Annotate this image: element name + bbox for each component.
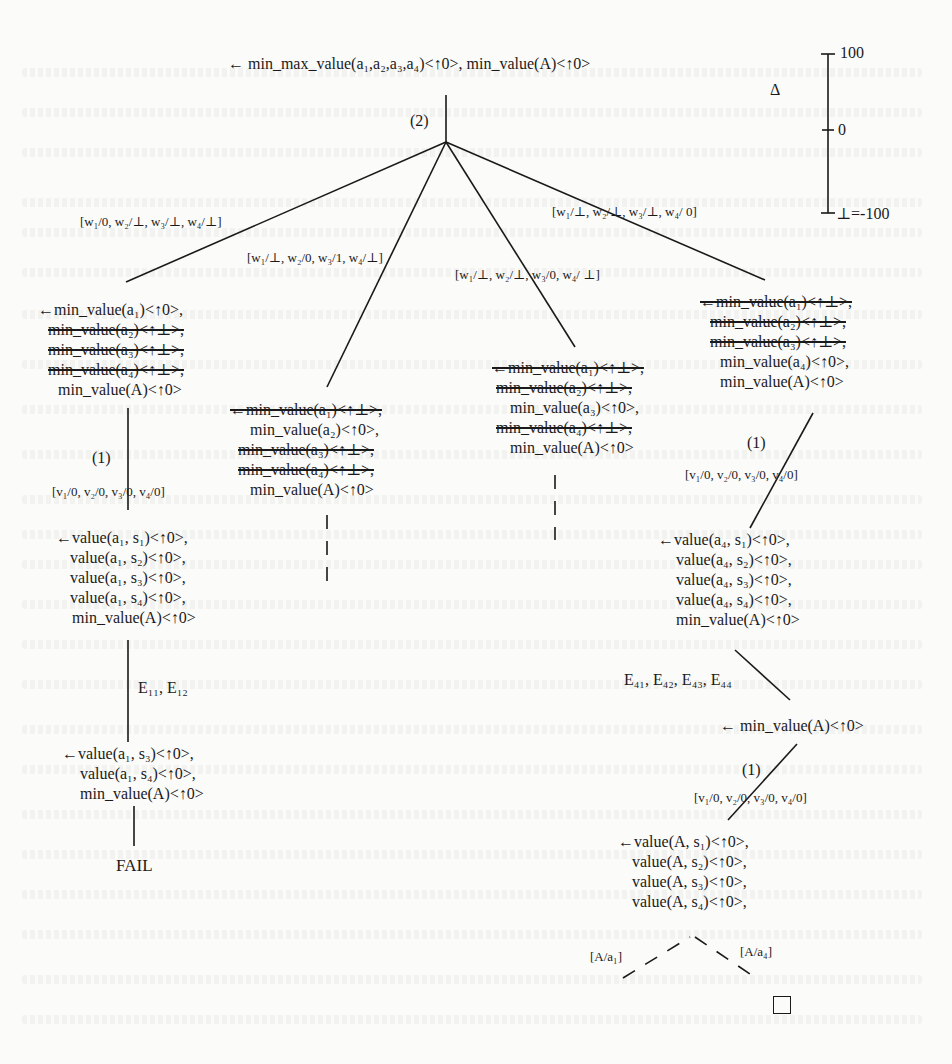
- goal-line: value(A, s₃)<↑0>,: [618, 872, 749, 892]
- goal-line: min_value(A)<↑0>: [56, 608, 196, 628]
- final-branch-left-label: [A/a₁]: [590, 949, 622, 965]
- goal-line-struck: ←min_value(a₁)<↑⊥>,: [230, 400, 382, 420]
- branch-4-substitution: [w₁/⊥, w₂/⊥, w₃/⊥, w₄/ 0]: [552, 204, 697, 220]
- goal-line: value(a₄, s₃)<↑0>,: [658, 570, 800, 590]
- final-branch-right-label: [A/a₄]: [740, 944, 772, 960]
- goal-line-struck: min_value(a₂)<↑⊥>,: [38, 320, 184, 340]
- branch-1-step1-goal: ←value(a₁, s₁)<↑0>, value(a₁, s₂)<↑0>, v…: [56, 528, 196, 628]
- goal-line-struck: ←min_value(a₁)<↑⊥>,: [700, 292, 852, 312]
- goal-line: value(a₁, s₄)<↑0>,: [56, 588, 196, 608]
- goal-line: min_value(A)<↑0>: [492, 438, 644, 458]
- goal-line-struck: min_value(a₃)<↑⊥>,: [230, 440, 382, 460]
- goal-line: value(A, s₂)<↑0>,: [618, 852, 749, 872]
- branch-1-step2-goal: ←value(a₁, s₃)<↑0>, value(a₁, s₄)<↑0>, m…: [62, 744, 204, 804]
- goal-line: min_value(a₄)<↑0>,: [700, 352, 852, 372]
- goal-line: min_value(A)<↑0>: [700, 372, 852, 392]
- goal-line: min_value(A)<↑0>: [230, 480, 382, 500]
- branch-4-step3-goal: ←value(A, s₁)<↑0>, value(A, s₂)<↑0>, val…: [618, 832, 749, 912]
- branch-3-goal: ←min_value(a₁)<↑⊥>, min_value(a₂)<↑⊥>, m…: [492, 358, 644, 458]
- goal-line: ←value(a₁, s₃)<↑0>,: [62, 744, 204, 764]
- branch-4-step1-label: (1): [747, 433, 766, 452]
- goal-line: ←value(a₄, s₁)<↑0>,: [658, 530, 800, 550]
- branch-1-edge-label: E₁₁, E₁₂: [138, 678, 188, 697]
- empty-clause-box-icon: [773, 996, 791, 1014]
- scale-top-label: 100: [840, 43, 864, 62]
- goal-line: min_value(A)<↑0>: [658, 610, 800, 630]
- root-goal: ← min_max_value(a₁,a₂,a₃,a₄)<↑0>, min_va…: [228, 54, 590, 73]
- goal-line-struck: min_value(a₂)<↑⊥>,: [700, 312, 852, 332]
- goal-line: value(a₄, s₂)<↑0>,: [658, 550, 800, 570]
- goal-line-struck: min_value(a₄)<↑⊥>,: [492, 418, 644, 438]
- goal-line: min_value(a₂)<↑0>,: [230, 420, 382, 440]
- branch-2-goal: ←min_value(a₁)<↑⊥>, min_value(a₂)<↑0>, m…: [230, 400, 382, 500]
- branch-3-substitution: [w₁/⊥, w₂/⊥, w₃/0, w₄/ ⊥]: [455, 267, 600, 283]
- branch-4-goal: ←min_value(a₁)<↑⊥>, min_value(a₂)<↑⊥>, m…: [700, 292, 852, 392]
- root-step-label: (2): [410, 111, 429, 130]
- branch-4-step1-substitution: [v₁/0, v₂/0, v₃/0, v₄/0]: [685, 467, 798, 483]
- branch-4-step1-goal: ←value(a₄, s₁)<↑0>, value(a₄, s₂)<↑0>, v…: [658, 530, 800, 630]
- branch-4-edge-label: E₄₁, E₄₂, E₄₃, E₄₄: [624, 670, 732, 689]
- branch-1-goal: ←min_value(a₁)<↑0>, min_value(a₂)<↑⊥>, m…: [38, 300, 184, 400]
- goal-line-struck: min_value(a₃)<↑⊥>,: [700, 332, 852, 352]
- goal-line: ←value(a₁, s₁)<↑0>,: [56, 528, 196, 548]
- goal-line-struck: min_value(a₃)<↑⊥>,: [38, 340, 184, 360]
- goal-line: value(a₁, s₂)<↑0>,: [56, 548, 196, 568]
- goal-line-struck: min_value(a₄)<↑⊥>,: [38, 360, 184, 380]
- branch-1-step1-substitution: [v₁/0, v₂/0, v₃/0, v₄/0]: [52, 484, 165, 500]
- goal-line: value(a₄, s₄)<↑0>,: [658, 590, 800, 610]
- goal-line: value(A, s₄)<↑0>,: [618, 892, 749, 912]
- goal-line: ←value(A, s₁)<↑0>,: [618, 832, 749, 852]
- scale-middle-label: 0: [838, 120, 846, 139]
- branch-4-step2-goal: ← min_value(A)<↑0>: [720, 716, 864, 735]
- goal-line-struck: min_value(a₂)<↑⊥>,: [492, 378, 644, 398]
- branch-4-step3-substitution: [v₁/0, v₂/0, v₃/0, v₄/0]: [694, 790, 807, 806]
- goal-line: min_value(A)<↑0>: [62, 784, 204, 804]
- goal-line-struck: min_value(a₄)<↑⊥>,: [230, 460, 382, 480]
- goal-line: ←min_value(a₁)<↑0>,: [38, 300, 184, 320]
- fail-label: FAIL: [116, 856, 153, 875]
- branch-4-step3-label: (1): [742, 760, 761, 779]
- goal-line-struck: ←min_value(a₁)<↑⊥>,: [492, 358, 644, 378]
- goal-line: value(a₁, s₄)<↑0>,: [62, 764, 204, 784]
- goal-line: min_value(a₃)<↑0>,: [492, 398, 644, 418]
- goal-line: value(a₁, s₃)<↑0>,: [56, 568, 196, 588]
- goal-line: min_value(A)<↑0>: [38, 380, 184, 400]
- branch-1-step1-label: (1): [92, 448, 111, 467]
- delta-icon: Δ: [770, 80, 780, 99]
- scale-bottom-label: ⊥=-100: [836, 204, 889, 223]
- branch-2-substitution: [w₁/⊥, w₂/0, w₃/1, w₄/⊥]: [247, 250, 383, 266]
- branch-1-substitution: [w₁/0, w₂/⊥, w₃/⊥, w₄/⊥]: [80, 214, 221, 230]
